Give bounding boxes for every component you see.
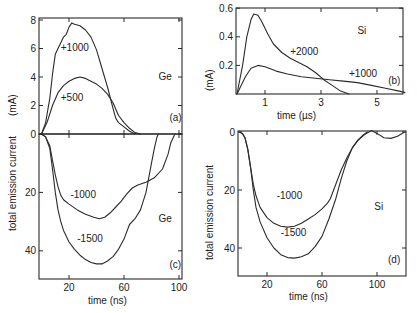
x-tick-label: 20 bbox=[63, 282, 75, 293]
x-axis-label-b-text: time (µs) bbox=[277, 110, 316, 121]
panel-c: 20601002040-1000-1500Ge(c) bbox=[25, 134, 188, 293]
x-tick-label: 60 bbox=[316, 279, 328, 290]
annotation-label: (b) bbox=[388, 75, 400, 86]
annotation-label: Ge bbox=[158, 213, 172, 224]
annotation-label: (d) bbox=[388, 254, 400, 265]
annotation-label: (a) bbox=[169, 112, 181, 123]
annotation-label: +500 bbox=[61, 92, 84, 103]
y-axis-label-right: total emission current bbox=[204, 165, 215, 260]
x-axis-label-d-text: time (ns) bbox=[289, 291, 328, 302]
series-minus1500-curve bbox=[42, 134, 159, 264]
series-minus1500-curve bbox=[240, 132, 368, 258]
annotation-label: -1000 bbox=[277, 190, 303, 201]
y-tick-label: 20 bbox=[224, 185, 236, 196]
figure-canvas: 02468+1000+500Ge(a) 1350.20.40.6+2000+10… bbox=[0, 0, 417, 313]
y-tick-label: 6 bbox=[30, 43, 36, 54]
annotation-label: Ge bbox=[158, 71, 172, 82]
x-axis-label-c-text: time (ns) bbox=[88, 295, 127, 306]
x-tick-label: 20 bbox=[261, 279, 273, 290]
x-tick-label: 60 bbox=[118, 282, 130, 293]
y-tick-label: 0.4 bbox=[219, 31, 233, 42]
series-plus1000-curve bbox=[237, 65, 405, 94]
y-tick-label: 0 bbox=[229, 127, 235, 138]
y-unit-label-left: (mA) bbox=[7, 94, 18, 116]
annotation-label: +1000 bbox=[349, 68, 378, 79]
annotation-label: (c) bbox=[169, 259, 181, 270]
y-tick-label: 8 bbox=[30, 15, 36, 26]
series-minus1000-curve bbox=[240, 131, 405, 228]
y-tick-label: 20 bbox=[25, 187, 37, 198]
annotation-label: +2000 bbox=[290, 46, 319, 57]
y-tick-label: 0 bbox=[30, 129, 36, 140]
x-tick-label: 3 bbox=[318, 97, 324, 108]
x-axis-label-b: time (µs) bbox=[277, 110, 316, 121]
y-axis-label-left: total emission current bbox=[7, 136, 18, 231]
y-tick-label: 40 bbox=[25, 245, 37, 256]
annotation-label: -1000 bbox=[70, 189, 96, 200]
panel-a: 02468+1000+500Ge(a) bbox=[30, 15, 182, 140]
series-plus500-curve bbox=[42, 77, 141, 134]
y-tick-label: 0.6 bbox=[219, 3, 233, 14]
panel-c-frame bbox=[39, 134, 182, 279]
x-axis-label-d: time (ns) bbox=[289, 291, 328, 302]
annotation-label: -1500 bbox=[281, 227, 307, 238]
x-tick-label: 100 bbox=[171, 282, 188, 293]
panel-b: 1350.20.40.6+2000+1000Si(b) bbox=[219, 3, 405, 108]
x-tick-label: 100 bbox=[369, 279, 386, 290]
y-tick-label: 2 bbox=[30, 100, 36, 111]
y-tick-label: 40 bbox=[224, 243, 236, 254]
panel-d: 206010002040-1000-1500Si(d) bbox=[224, 127, 406, 291]
annotation-label: Si bbox=[357, 25, 366, 36]
x-axis-label-c: time (ns) bbox=[88, 295, 127, 306]
y-unit-label-right: (mA) bbox=[204, 69, 215, 91]
annotation-label: Si bbox=[374, 201, 383, 212]
y-tick-label: 0.2 bbox=[219, 60, 233, 71]
series-plus1000-curve bbox=[42, 23, 136, 134]
x-tick-label: 1 bbox=[262, 97, 268, 108]
x-tick-label: 5 bbox=[374, 97, 380, 108]
annotation-label: -1500 bbox=[77, 233, 103, 244]
annotation-label: +1000 bbox=[61, 42, 90, 53]
y-tick-label: 4 bbox=[30, 72, 36, 83]
